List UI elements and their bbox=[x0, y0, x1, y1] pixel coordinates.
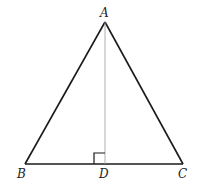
label-a: A bbox=[99, 6, 109, 20]
label-c: C bbox=[178, 167, 187, 181]
label-d: D bbox=[98, 167, 109, 181]
side-ab bbox=[25, 22, 105, 164]
label-b: B bbox=[16, 167, 26, 181]
right-angle-marker bbox=[94, 153, 105, 164]
triangle-diagram: A B C D bbox=[0, 0, 201, 188]
side-ac bbox=[105, 22, 183, 164]
